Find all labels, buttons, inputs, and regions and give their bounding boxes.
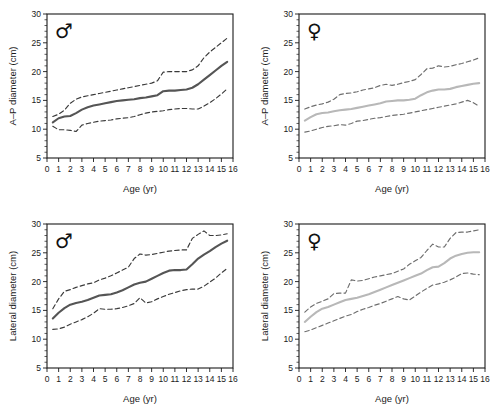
panel-ap-diameter-male: 51015202530012345678910111213141516♂Age …	[0, 0, 252, 210]
x-axis-title: Age (yr)	[123, 393, 157, 404]
x-tick-label: 13	[445, 164, 455, 174]
x-tick-label: 14	[205, 164, 215, 174]
y-tick-label: 10	[32, 124, 42, 134]
plot-area-lat-female: 51015202530012345678910111213141516♀Age …	[259, 219, 490, 404]
y-tick-label: 25	[32, 38, 42, 48]
x-tick-label: 2	[320, 164, 325, 174]
x-tick-label: 10	[411, 164, 421, 174]
x-tick-label: 14	[457, 374, 467, 384]
x-tick-label: 3	[332, 164, 337, 174]
x-tick-label: 5	[103, 374, 108, 384]
x-axis-title: Age (yr)	[375, 183, 409, 194]
figure-four-panel-growth-charts: 51015202530012345678910111213141516♂Age …	[0, 0, 504, 420]
x-tick-label: 15	[217, 374, 227, 384]
series-median	[53, 62, 227, 122]
x-tick-label: 4	[343, 374, 348, 384]
x-tick-label: 10	[411, 374, 421, 384]
x-tick-label: 12	[434, 374, 444, 384]
series-lower-limit	[305, 273, 479, 332]
panel-ap-diameter-female: 51015202530012345678910111213141516♀Age …	[252, 0, 504, 210]
x-tick-label: 7	[378, 164, 383, 174]
series-upper-limit	[53, 231, 227, 309]
y-tick-label: 5	[288, 363, 293, 373]
x-tick-label: 0	[45, 374, 50, 384]
y-tick-label: 30	[284, 9, 294, 19]
y-tick-label: 30	[32, 219, 42, 229]
x-tick-label: 11	[170, 164, 179, 174]
plot-area-ap-male: 51015202530012345678910111213141516♂Age …	[7, 9, 238, 194]
y-tick-label: 25	[284, 38, 294, 48]
sex-symbol-female-icon: ♀	[307, 19, 322, 43]
x-tick-label: 6	[366, 164, 371, 174]
y-tick-label: 20	[284, 277, 294, 287]
y-tick-label: 10	[284, 124, 294, 134]
x-tick-label: 1	[56, 164, 61, 174]
x-tick-label: 7	[126, 374, 131, 384]
plot-area-lat-male: 51015202530012345678910111213141516♂Age …	[7, 219, 238, 404]
x-tick-label: 12	[182, 374, 192, 384]
x-tick-label: 15	[469, 164, 479, 174]
y-tick-label: 25	[284, 248, 294, 258]
x-tick-label: 13	[193, 164, 203, 174]
y-tick-label: 5	[36, 153, 41, 163]
x-axis-title: Age (yr)	[375, 393, 409, 404]
x-axis-title: Age (yr)	[123, 183, 157, 194]
y-tick-label: 30	[284, 219, 294, 229]
x-tick-label: 1	[56, 374, 61, 384]
sex-symbol-male-icon: ♂	[55, 19, 73, 43]
series-median	[53, 241, 227, 319]
y-tick-label: 20	[284, 67, 294, 77]
x-tick-label: 9	[149, 164, 154, 174]
x-tick-label: 9	[401, 164, 406, 174]
x-tick-label: 11	[422, 164, 431, 174]
chart-svg-ap-male: 51015202530012345678910111213141516♂Age …	[0, 0, 252, 210]
plot-area-ap-female: 51015202530012345678910111213141516♀Age …	[259, 9, 490, 194]
x-tick-label: 7	[378, 374, 383, 384]
x-tick-label: 5	[103, 164, 108, 174]
y-axis-title: A–P diameter (cm)	[259, 46, 270, 125]
y-axis-title: A–P diameter (cm)	[7, 46, 18, 125]
x-tick-label: 3	[80, 164, 85, 174]
x-tick-label: 3	[332, 374, 337, 384]
series-upper-limit	[305, 230, 479, 312]
series-upper-limit	[53, 38, 227, 116]
x-tick-label: 12	[182, 164, 192, 174]
panel-lateral-diameter-female: 51015202530012345678910111213141516♀Age …	[252, 210, 504, 420]
x-tick-label: 7	[126, 164, 131, 174]
x-tick-label: 0	[45, 164, 50, 174]
x-tick-label: 4	[91, 374, 96, 384]
x-tick-label: 15	[217, 164, 227, 174]
x-tick-label: 8	[390, 374, 395, 384]
panel-lateral-diameter-male: 51015202530012345678910111213141516♂Age …	[0, 210, 252, 420]
x-tick-label: 0	[297, 374, 302, 384]
x-tick-label: 8	[138, 374, 143, 384]
y-tick-label: 15	[284, 95, 294, 105]
x-tick-label: 0	[297, 164, 302, 174]
x-tick-label: 16	[228, 374, 238, 384]
x-tick-label: 1	[308, 374, 313, 384]
x-tick-label: 1	[308, 164, 313, 174]
series-lower-limit	[305, 100, 479, 132]
x-tick-label: 5	[355, 164, 360, 174]
x-tick-label: 3	[80, 374, 85, 384]
x-tick-label: 15	[469, 374, 479, 384]
x-tick-label: 11	[422, 374, 431, 384]
x-tick-label: 11	[170, 374, 179, 384]
x-tick-label: 16	[480, 374, 490, 384]
x-tick-label: 14	[205, 374, 215, 384]
x-tick-label: 6	[366, 374, 371, 384]
x-tick-label: 6	[114, 374, 119, 384]
x-tick-label: 9	[401, 374, 406, 384]
x-tick-label: 2	[68, 164, 73, 174]
plot-frame	[47, 224, 233, 368]
x-tick-label: 14	[457, 164, 467, 174]
x-tick-label: 8	[138, 164, 143, 174]
chart-svg-lat-female: 51015202530012345678910111213141516♀Age …	[252, 210, 504, 420]
y-tick-label: 15	[284, 305, 294, 315]
y-axis-title: Lateral diameter (cm)	[7, 251, 18, 341]
y-tick-label: 15	[32, 305, 42, 315]
y-tick-label: 20	[32, 67, 42, 77]
y-tick-label: 15	[32, 95, 42, 105]
sex-symbol-female-icon: ♀	[307, 229, 322, 253]
y-tick-label: 5	[36, 363, 41, 373]
